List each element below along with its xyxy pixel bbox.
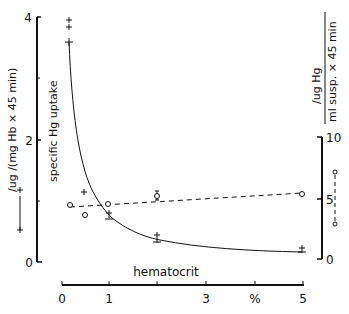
- left-tick-2: 2: [25, 134, 33, 148]
- x-tick-5: 5: [299, 292, 307, 306]
- legend-plus-solid: [17, 187, 23, 233]
- plus-marker: [65, 38, 73, 46]
- plus-marker: [66, 17, 72, 23]
- left-y-axis: [37, 17, 42, 262]
- right-tick-10: 10: [326, 131, 341, 145]
- right-tick-0: 0: [326, 253, 334, 267]
- plus-marker: [154, 232, 160, 243]
- circle-marker: [68, 203, 73, 208]
- solid-fit-curve: [69, 42, 302, 252]
- right-axis-numerator: /ug Hg: [310, 68, 323, 104]
- circle-marker: [155, 194, 160, 199]
- x-unit-percent: %: [249, 292, 260, 306]
- left-tick-4: 4: [24, 11, 32, 25]
- x-tick-3: 3: [202, 292, 210, 306]
- plus-marker: [66, 24, 72, 30]
- circle-marker: [300, 192, 305, 197]
- dashed-fit-line: [70, 193, 302, 207]
- chart-figure: 4 2 0 /ug /(mg Hb × 45 min) specific Hg …: [0, 0, 349, 314]
- left-axis-title: specific Hg uptake: [47, 80, 60, 182]
- x-tick-1: 1: [105, 292, 113, 306]
- circle-marker: [83, 213, 88, 218]
- right-axis-unit-label: /ug Hg ml susp. × 45 min: [310, 12, 339, 124]
- plus-markers: [65, 17, 306, 253]
- x-axis: [62, 281, 304, 285]
- right-axis-denominator: ml susp. × 45 min: [326, 21, 339, 122]
- right-y-axis: [317, 137, 322, 259]
- plus-marker: [81, 189, 87, 195]
- x-axis-title: hematocrit: [133, 265, 199, 279]
- circle-marker: [106, 202, 111, 207]
- left-tick-0: 0: [25, 256, 33, 270]
- x-tick-0: 0: [58, 292, 66, 306]
- right-tick-5: 5: [326, 193, 334, 207]
- left-axis-unit-label: /ug /(mg Hb × 45 min): [6, 68, 19, 192]
